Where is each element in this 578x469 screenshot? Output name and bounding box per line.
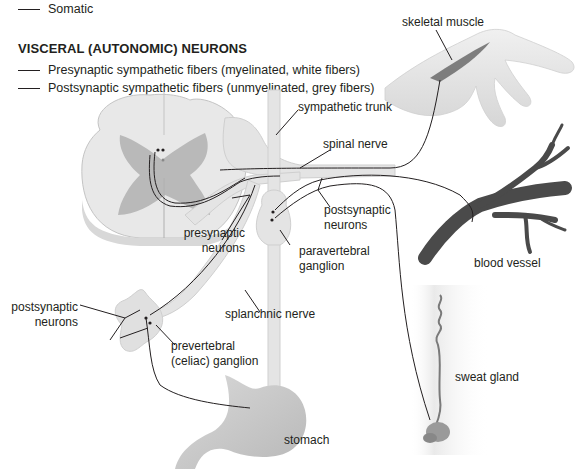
label-blood-vessel: blood vessel <box>474 256 541 271</box>
label-line-1: paravertebral <box>299 244 370 259</box>
label-presynaptic-neurons: presynaptic neurons <box>170 226 245 256</box>
label-line-1: presynaptic <box>170 226 245 241</box>
label-line-2: neurons <box>170 241 245 256</box>
label-line-1: postsynaptic <box>324 203 391 218</box>
blood-vessel-illustration <box>425 125 568 258</box>
label-skeletal-muscle: skeletal muscle <box>402 15 484 30</box>
hand-illustration <box>385 29 574 126</box>
label-line-2: neurons <box>0 315 78 330</box>
label-line-1: prevertebral <box>171 339 258 354</box>
label-postsynaptic-neurons-upper: postsynaptic neurons <box>324 203 391 233</box>
label-sweat-gland: sweat gland <box>455 370 519 385</box>
label-splanchnic-nerve: splanchnic nerve <box>225 307 315 322</box>
label-line-2: neurons <box>324 218 391 233</box>
sympathetic-pathway-illustration <box>0 0 578 469</box>
label-line-2: (celiac) ganglion <box>171 354 258 369</box>
label-spinal-nerve: spinal nerve <box>323 137 388 152</box>
label-line-2: ganglion <box>299 259 370 274</box>
prevertebral-ganglion-shape <box>115 290 162 352</box>
label-line-1: postsynaptic <box>0 300 78 315</box>
label-sympathetic-trunk: sympathetic trunk <box>298 100 392 115</box>
stomach-illustration <box>175 375 306 469</box>
label-stomach: stomach <box>284 433 329 448</box>
spinal-cord-cross-section <box>82 92 247 246</box>
label-postsynaptic-neurons-lower: postsynaptic neurons <box>0 300 78 330</box>
label-paravertebral-ganglion: paravertebral ganglion <box>299 244 370 274</box>
label-prevertebral-ganglion: prevertebral (celiac) ganglion <box>171 339 258 369</box>
